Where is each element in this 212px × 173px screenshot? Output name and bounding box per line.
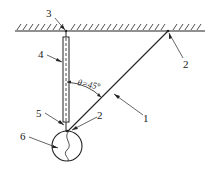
label-3: 3 bbox=[46, 7, 52, 19]
angle-label: θ=45° bbox=[77, 77, 102, 92]
bottom-anchor-point bbox=[66, 130, 69, 133]
arrowhead-2-top bbox=[169, 33, 172, 39]
arrowhead-4 bbox=[56, 58, 62, 62]
top-anchor-point bbox=[167, 30, 170, 33]
arrowhead-1 bbox=[114, 94, 120, 99]
ball bbox=[52, 131, 82, 161]
diagram: θ=45° 3 4 2 1 5 2 6 bbox=[0, 0, 212, 173]
label-1: 1 bbox=[143, 112, 149, 124]
label-2-bottom: 2 bbox=[97, 109, 103, 121]
label-4: 4 bbox=[38, 48, 44, 60]
label-2-top: 2 bbox=[183, 58, 189, 70]
rod bbox=[63, 37, 69, 122]
ceiling bbox=[15, 24, 205, 31]
diagram-canvas: θ=45° 3 4 2 1 5 2 6 bbox=[0, 0, 212, 173]
hook-point bbox=[65, 30, 67, 32]
label-5: 5 bbox=[36, 107, 42, 119]
ceiling-hatching bbox=[17, 24, 201, 30]
label-6: 6 bbox=[20, 130, 26, 142]
